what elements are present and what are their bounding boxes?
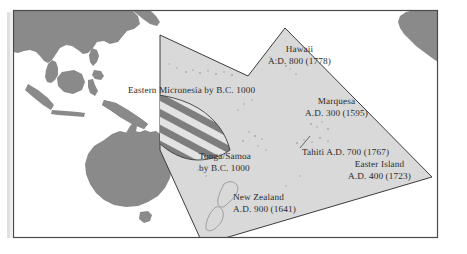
map-label-new-zealand: New Zealand A.D. 900 (1641)	[233, 192, 296, 215]
map-label-easter-island: Easter Island A.D. 400 (1723)	[348, 159, 411, 182]
map-label-new-zealand-line-1: New Zealand	[233, 192, 296, 204]
map-canvas	[0, 0, 467, 254]
map-label-marquesa: Marquesa A.D. 300 (1595)	[305, 96, 368, 119]
map-label-tonga-samoa-line-1: Tonga/Samoa	[199, 151, 251, 163]
map-label-eastern-micronesia-line-1: Eastern Micronesia by B.C. 1000	[128, 85, 255, 97]
map-label-easter-island-line-1: Easter Island	[348, 159, 411, 171]
map-label-eastern-micronesia: Eastern Micronesia by B.C. 1000	[128, 85, 255, 97]
map-label-hawaii-line-1: Hawaii	[268, 44, 331, 56]
map-content	[13, 10, 438, 238]
page-shadow-left-inner	[10, 12, 12, 238]
map-label-hawaii-line-2: A.D. 800 (1778)	[268, 56, 331, 68]
map-label-tonga-samoa: Tonga/Samoa by B.C. 1000	[199, 151, 251, 174]
map-label-marquesa-line-1: Marquesa	[305, 96, 368, 108]
map-label-new-zealand-line-2: A.D. 900 (1641)	[233, 204, 296, 216]
map-label-tahiti-line-1: Tahiti A.D. 700 (1767)	[302, 147, 389, 159]
map-label-marquesa-line-2: A.D. 300 (1595)	[305, 108, 368, 120]
map-label-tahiti: Tahiti A.D. 700 (1767)	[302, 147, 389, 159]
map-label-tonga-samoa-line-2: by B.C. 1000	[199, 163, 251, 175]
map-label-hawaii: Hawaii A.D. 800 (1778)	[268, 44, 331, 67]
page-shadow-left	[7, 12, 10, 238]
map-label-easter-island-line-2: A.D. 400 (1723)	[348, 171, 411, 183]
polynesian-settlement-map: Hawaii A.D. 800 (1778) Eastern Micronesi…	[0, 0, 467, 254]
